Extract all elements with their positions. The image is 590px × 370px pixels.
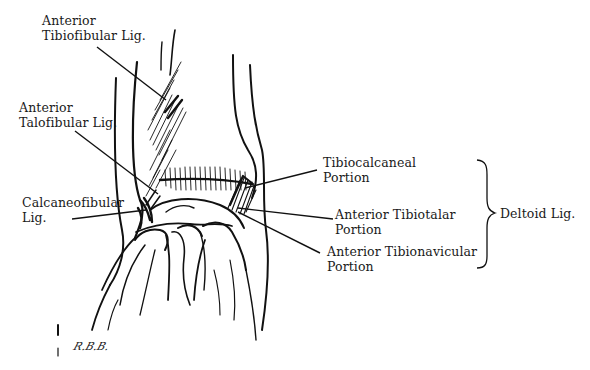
label-anterior-tibiotalar-portion: Anterior Tibiotalar Portion: [335, 207, 456, 237]
label-line: Anterior Tibionavicular: [327, 244, 477, 259]
label-calcaneofibular-lig: Calcaneofibular Lig.: [22, 195, 124, 225]
leader-anterior-tibiofibular: [97, 47, 166, 100]
label-line: Calcaneofibular: [22, 195, 124, 210]
label-line: Tibiocalcaneal: [323, 155, 416, 170]
label-anterior-tibionavicular-portion: Anterior Tibionavicular Portion: [327, 244, 477, 274]
leader-anterior-tibiotalar: [238, 208, 333, 219]
artist-signature: R.B.B.: [72, 340, 111, 353]
label-line: Portion: [335, 222, 456, 237]
label-line: Portion: [327, 259, 477, 274]
label-line: Portion: [323, 170, 416, 185]
label-line: Tibiofibular Lig.: [42, 28, 146, 43]
label-deltoid-lig: Deltoid Lig.: [500, 206, 575, 221]
ankle-ligament-illustration: Anterior Tibiofibular Lig. Anterior Talo…: [0, 0, 590, 370]
label-line: Anterior: [42, 13, 146, 28]
label-anterior-talofibular-lig: Anterior Talofibular Lig.: [19, 100, 117, 130]
label-tibiocalcaneal-portion: Tibiocalcaneal Portion: [323, 155, 416, 185]
line-drawing: [0, 0, 590, 370]
label-line: Lig.: [22, 210, 124, 225]
label-line: Anterior: [19, 100, 117, 115]
label-line: Deltoid Lig.: [500, 206, 575, 221]
label-anterior-tibiofibular-lig: Anterior Tibiofibular Lig.: [42, 13, 146, 43]
label-line: Talofibular Lig.: [19, 115, 117, 130]
label-line: Anterior Tibiotalar: [335, 207, 456, 222]
leader-anterior-tibionavicular: [238, 212, 320, 253]
deltoid-brace: [477, 160, 495, 268]
